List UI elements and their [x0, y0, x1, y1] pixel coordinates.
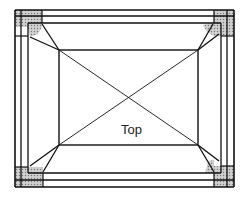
- frame-lines: [15, 10, 234, 187]
- diagram-label: Top: [121, 122, 142, 137]
- corner-wedge-bottom-right: [205, 160, 214, 173]
- corner-block-bottom-right: [214, 166, 234, 187]
- hip-line-top-right-b: [198, 34, 219, 50]
- inner-structure: [30, 24, 219, 172]
- corner-wedge-top-left: [28, 27, 42, 37]
- hip-line-bottom-right-b: [198, 145, 219, 161]
- hip-line-bottom-right-a: [198, 145, 214, 172]
- top-view-diagram: Top: [0, 0, 248, 200]
- hip-line-bottom-left-b: [43, 145, 59, 172]
- corner-blocks: [15, 10, 234, 187]
- hip-line-bottom-left-a: [30, 145, 59, 166]
